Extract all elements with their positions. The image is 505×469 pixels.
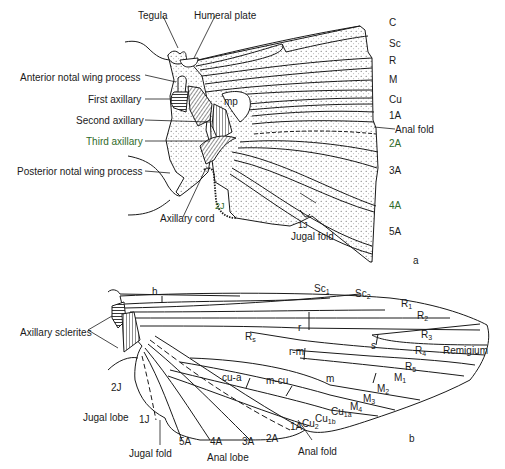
vein-label-cu: Cu bbox=[389, 94, 402, 105]
label-m2: M2 bbox=[377, 383, 389, 394]
label-sc1: Sc1 bbox=[314, 283, 330, 294]
label-anal-fold-a: Anal fold bbox=[395, 124, 434, 135]
label-jugal-lobe: Jugal lobe bbox=[83, 412, 129, 423]
label-anterior-notal-wing-process: Anterior notal wing process bbox=[20, 72, 141, 83]
vein-label-1a: 1A bbox=[389, 110, 401, 121]
label-anal-fold-b: Anal fold bbox=[298, 446, 337, 457]
vein-label-c: C bbox=[389, 17, 396, 28]
wing-diagram bbox=[0, 0, 505, 469]
label-second-axillary: Second axillary bbox=[76, 115, 144, 126]
panel-label-b: b bbox=[409, 433, 415, 444]
label-1j-b: 1J bbox=[139, 414, 150, 425]
vein-label-r: R bbox=[389, 55, 396, 66]
label-remigium: Remigium bbox=[443, 345, 488, 356]
label-crossvein-s: s bbox=[371, 340, 376, 351]
label-jugal-fold-b: Jugal fold bbox=[129, 448, 172, 459]
label-mp: mp bbox=[224, 96, 238, 107]
label-r5: R5 bbox=[405, 361, 416, 372]
label-2a-b: 2A bbox=[266, 433, 278, 444]
label-m4: M4 bbox=[350, 401, 362, 412]
tegula-stalk bbox=[125, 41, 172, 60]
label-crossvein-m: m bbox=[326, 373, 334, 384]
panel-label-a: a bbox=[413, 255, 419, 266]
label-1j-a: 1J bbox=[298, 220, 308, 231]
vein-label-3a: 3A bbox=[389, 165, 401, 176]
label-crossvein-r-m: r-m bbox=[289, 346, 304, 357]
label-rs: Rs bbox=[245, 331, 256, 342]
panel-a-wing-base bbox=[125, 16, 395, 262]
label-axillary-cord: Axillary cord bbox=[160, 213, 214, 224]
label-cu2: Cu2 bbox=[302, 418, 319, 429]
label-2j-b: 2J bbox=[111, 382, 122, 393]
vein-label-5a: 5A bbox=[389, 226, 401, 237]
label-r1: R1 bbox=[401, 298, 412, 309]
vein-label-sc: Sc bbox=[389, 38, 401, 49]
label-2j-a: 2J bbox=[215, 201, 225, 212]
label-4a-b: 4A bbox=[210, 436, 222, 447]
label-r2: R2 bbox=[417, 310, 428, 321]
label-crossvein-r: r bbox=[298, 322, 301, 333]
label-r3: R3 bbox=[421, 329, 432, 340]
label-crossvein-m-cu: m-cu bbox=[266, 375, 288, 386]
label-5a-b: 5A bbox=[179, 436, 191, 447]
label-posterior-notal-wing-process: Posterior notal wing process bbox=[17, 166, 143, 177]
label-first-axillary: First axillary bbox=[88, 94, 141, 105]
label-m1: M1 bbox=[394, 372, 406, 383]
label-axillary-sclerites: Axillary sclerites bbox=[20, 327, 92, 338]
vein-label-m: M bbox=[389, 74, 397, 85]
label-1a-b: 1A bbox=[290, 421, 302, 432]
label-3a-b: 3A bbox=[242, 436, 254, 447]
label-tegula: Tegula bbox=[138, 10, 167, 21]
label-humeral-plate: Humeral plate bbox=[194, 10, 256, 21]
vein-label-4a: 4A bbox=[389, 200, 401, 211]
label-m3: M3 bbox=[363, 393, 375, 404]
label-jugal-fold-a: Jugal fold bbox=[291, 231, 334, 242]
label-r4: R4 bbox=[415, 345, 426, 356]
vein-label-2a: 2A bbox=[389, 138, 401, 149]
label-h: h bbox=[152, 286, 158, 297]
label-crossvein-cu-a: cu-a bbox=[222, 372, 241, 383]
label-anal-lobe: Anal lobe bbox=[207, 452, 249, 463]
label-third-axillary: Third axillary bbox=[86, 136, 143, 147]
label-sc2: Sc2 bbox=[355, 288, 371, 299]
